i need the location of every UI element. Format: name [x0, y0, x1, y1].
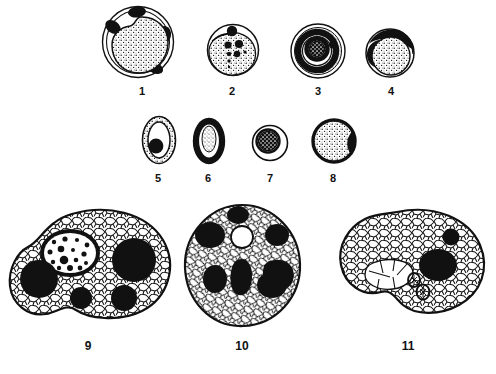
figure-7-drawing [250, 124, 290, 162]
figure-10-label: 10 [235, 340, 248, 352]
figure-11-label: 11 [402, 340, 415, 352]
figure-5-label: 5 [155, 172, 161, 184]
figure-9-label: 9 [85, 340, 92, 352]
figure-3-drawing [288, 22, 348, 80]
figure-9-drawing [6, 206, 176, 331]
figure-4-drawing [363, 27, 417, 79]
figure-6-drawing [192, 117, 226, 165]
figure-4-label: 4 [388, 85, 394, 97]
figure-7-label: 7 [267, 172, 273, 184]
figure-10-drawing [182, 202, 304, 330]
figure-2-label: 2 [229, 85, 235, 97]
illustration-plate: 1 2 3 [0, 0, 496, 374]
figure-3-label: 3 [315, 85, 321, 97]
figure-8-drawing [311, 118, 357, 164]
figure-11-drawing [335, 207, 487, 327]
figure-1-label: 1 [139, 85, 145, 97]
figure-2-drawing [205, 22, 261, 78]
figure-5-drawing [141, 115, 177, 165]
figure-1-drawing [100, 4, 180, 84]
figure-6-label: 6 [205, 172, 211, 184]
figure-8-label: 8 [330, 172, 336, 184]
